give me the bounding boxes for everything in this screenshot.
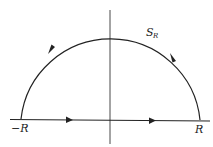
arrow-counterclockwise-icon	[48, 45, 55, 55]
arrow-right-icon	[149, 118, 156, 125]
label-pos-r: R	[194, 123, 203, 136]
label-arc-subscript: R	[152, 32, 159, 40]
arrow-right-icon	[66, 117, 73, 124]
arrow-counterclockwise-icon	[170, 53, 176, 63]
semicircle-arc-s-r	[21, 39, 200, 120]
real-axis	[10, 120, 210, 122]
contour-diagram: −R R S R	[0, 0, 213, 147]
label-neg-r: −R	[11, 122, 29, 135]
